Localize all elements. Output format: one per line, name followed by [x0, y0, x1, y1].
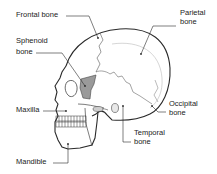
leader-frontal: [66, 16, 98, 38]
label-maxilla: Maxilla: [16, 106, 39, 115]
leader-lines: [36, 16, 176, 163]
label-mandible: Mandible: [16, 158, 46, 167]
sphenoid-region: [80, 75, 96, 99]
leader-temporal: [123, 106, 131, 142]
skull-diagram: Frontal bone Parietal bone Sphenoid bone…: [0, 0, 217, 174]
label-sphenoid-line1: Sphenoid: [16, 37, 48, 46]
teeth: [56, 116, 86, 127]
leader-sphenoid: [36, 53, 85, 86]
label-temporal-line2: bone: [134, 138, 151, 147]
leader-mandible: [53, 144, 68, 163]
label-frontal-bone: Frontal bone: [16, 11, 58, 20]
orbit: [65, 80, 77, 96]
label-parietal-line2: bone: [180, 18, 197, 27]
label-sphenoid-line2: bone: [16, 48, 33, 57]
label-occipital-line2: bone: [169, 109, 186, 118]
